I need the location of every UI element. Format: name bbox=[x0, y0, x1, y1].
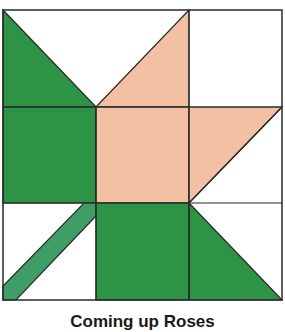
block-caption: Coming up Roses bbox=[0, 312, 285, 332]
leaf-square-middle-left bbox=[3, 107, 96, 203]
quilt-block bbox=[0, 0, 285, 310]
leaf-square-bottom-middle bbox=[96, 203, 189, 300]
rose-center-square bbox=[96, 107, 189, 203]
